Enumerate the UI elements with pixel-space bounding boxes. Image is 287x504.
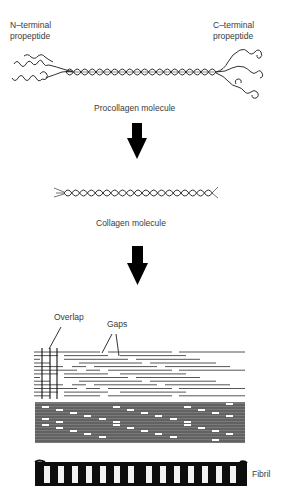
arrow-down-icon (127, 123, 147, 159)
arrow-down-icon (127, 246, 148, 285)
collagen-molecule (54, 187, 218, 198)
staggered-array (34, 352, 245, 396)
diagram-canvas (0, 0, 287, 504)
procollagen-molecule (12, 49, 263, 98)
fibril (35, 461, 247, 487)
packed-array (35, 402, 245, 443)
